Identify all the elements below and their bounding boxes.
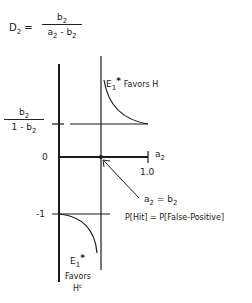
condition-equation: a2 = b2: [144, 195, 177, 204]
lower-curve-favors: Favors: [65, 273, 91, 281]
zero-label: 0: [42, 153, 48, 162]
upper-curve-label: E1* Favors H: [106, 80, 158, 89]
lower-curve-label: E1*: [70, 257, 85, 266]
intersection-dot: [99, 155, 103, 159]
lower-curve-hc: Hc: [73, 285, 82, 293]
x-tick-label: 1.0: [140, 168, 154, 177]
condition-text: P[Hit] = P[False-Positive]: [125, 214, 224, 222]
minus-one-label: -1: [36, 210, 45, 219]
upper-level-label: b2 1 - b2: [4, 107, 44, 132]
lower-curve: [60, 214, 97, 253]
x-axis-label: a2: [155, 150, 165, 159]
diagram-canvas: [0, 0, 252, 303]
arrow-line: [104, 161, 139, 198]
